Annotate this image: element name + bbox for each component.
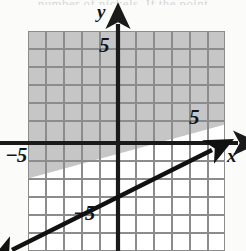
x-axis-tick-5: 5 [189, 107, 200, 128]
graph-figure: number of nickels. If the point [0, 0, 246, 251]
y-axis-tick-5: 5 [99, 35, 110, 56]
y-axis-tick-neg5: −5 [73, 203, 94, 224]
coordinate-plane-svg [0, 0, 246, 251]
x-axis-label: x [227, 146, 237, 165]
x-axis-tick-neg5: −5 [5, 145, 26, 166]
y-axis-label: y [97, 2, 105, 21]
